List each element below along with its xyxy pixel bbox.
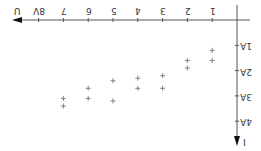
data-point-plus-icon — [160, 86, 165, 91]
y-axis-arrow-icon — [234, 136, 240, 146]
data-point-plus-icon — [111, 98, 116, 103]
x-tick-label: 8V — [33, 6, 45, 15]
y-tick-label: 4A — [240, 117, 252, 126]
data-point-plus-icon — [135, 86, 140, 91]
y-tick-label: 2A — [240, 67, 252, 76]
data-point-plus-icon — [185, 66, 190, 71]
x-tick-label: 1 — [210, 6, 216, 15]
x-tick-label: 4 — [135, 6, 141, 15]
data-point-plus-icon — [135, 76, 140, 81]
data-point-plus-icon — [160, 73, 165, 78]
data-point-plus-icon — [61, 96, 66, 101]
data-point-plus-icon — [185, 58, 190, 63]
data-point-plus-icon — [61, 104, 66, 109]
y-tick-label: 1A — [240, 41, 252, 50]
data-point-plus-icon — [210, 48, 215, 53]
x-tick-label: 6 — [86, 6, 92, 15]
x-axis-arrow-icon — [12, 17, 22, 23]
x-tick-label: 7 — [61, 6, 67, 15]
scatter-plot — [0, 0, 261, 151]
y-axis-label: I — [243, 137, 246, 146]
x-tick-label: 5 — [111, 6, 117, 15]
data-points — [61, 48, 215, 109]
data-point-plus-icon — [210, 58, 215, 63]
data-point-plus-icon — [111, 78, 116, 83]
x-tick-label: 2 — [185, 6, 191, 15]
data-point-plus-icon — [86, 86, 91, 91]
x-tick-label: 3 — [160, 6, 166, 15]
axes — [12, 5, 250, 146]
x-axis-label: U — [14, 6, 21, 15]
data-point-plus-icon — [86, 96, 91, 101]
y-tick-label: 3A — [240, 92, 252, 101]
